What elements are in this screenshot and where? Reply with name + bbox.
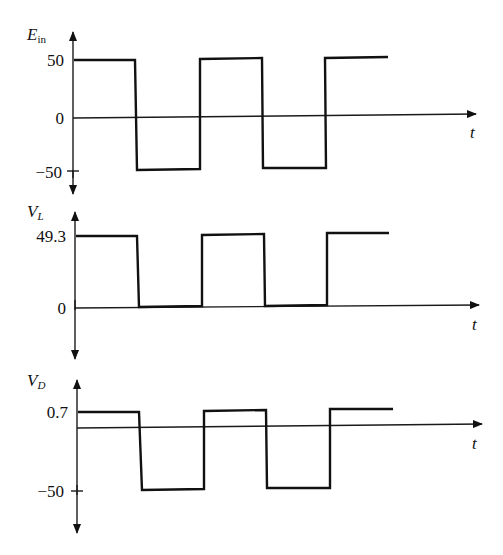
vl-ylabel: VL [27, 202, 44, 222]
vd-waveform [78, 409, 393, 490]
ein-xlabel: t [470, 123, 476, 142]
ein-tick-0-label: 0 [56, 109, 65, 128]
vd-xlabel: t [472, 434, 478, 453]
vd-ylabel: VD [27, 371, 45, 391]
vd-t-axis [77, 424, 482, 428]
ein-tick-50-label: 50 [47, 51, 64, 70]
vl-xlabel: t [472, 315, 478, 334]
ein-waveform [74, 57, 388, 170]
vd-tick-0-7-label: 0.7 [47, 403, 69, 422]
vl-tick-0-label: 0 [58, 299, 67, 318]
panel-vd: VD 0.7 −50 t [27, 371, 482, 533]
panel-ein: Ein 50 0 −50 t [26, 25, 476, 194]
ein-t-axis [73, 114, 476, 118]
panel-vl: VL 49.3 0 t [27, 202, 479, 359]
vl-waveform [76, 233, 389, 307]
vd-tick-neg50-label: −50 [37, 482, 64, 501]
ein-ylabel: Ein [26, 25, 46, 45]
ein-tick-neg50-label: −50 [35, 163, 62, 182]
waveform-diagram: Ein 50 0 −50 t VL 49.3 0 t VD 0.7 −50 t [0, 0, 503, 555]
vl-tick-49-3-label: 49.3 [36, 227, 66, 246]
